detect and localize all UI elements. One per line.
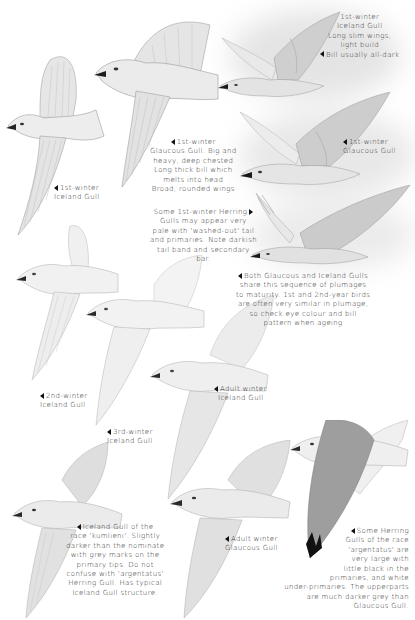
caption-sequence-note: Both Glaucous and Iceland Gulls share th… (236, 272, 370, 328)
left-pointing-triangle-icon (238, 273, 242, 279)
left-pointing-triangle-icon (77, 524, 81, 530)
caption-3rd-winter-iceland-gull: 3rd-winter Iceland Gull (107, 428, 153, 447)
left-pointing-triangle-icon (54, 185, 58, 191)
left-pointing-triangle-icon (343, 139, 347, 145)
left-pointing-triangle-icon (225, 536, 229, 542)
left-pointing-triangle-icon (214, 386, 218, 392)
caption-herring-gull-argentatus: Some Herring Gulls of the race 'argentat… (284, 527, 409, 612)
caption-adult-winter-iceland-gull: Adult winter Iceland Gull (214, 385, 267, 404)
right-pointing-triangle-icon (249, 209, 253, 215)
caption-iceland-gull-kumlieni: Iceland Gull of the race 'kumlieni'. Sli… (66, 523, 164, 598)
left-pointing-triangle-icon (351, 528, 355, 534)
caption-1st-winter-glaucous-gull-big: 1st-winter Glaucous Gull. Big and heavy,… (150, 138, 237, 194)
caption-1st-winter-iceland-gull-top: 1st-winter Iceland Gull Long slim wings,… (320, 13, 399, 60)
caption-1st-winter-glaucous-gull-right: 1st-winter Glaucous Gull (343, 138, 396, 157)
bird-adult-winter-glaucous-gull (170, 440, 300, 620)
caption-2nd-winter-iceland-gull: 2nd-winter Iceland Gull (40, 392, 87, 411)
left-pointing-triangle-icon (107, 429, 111, 435)
caption-1st-winter-iceland-gull-left: 1st-winter Iceland Gull (54, 184, 100, 203)
left-pointing-triangle-icon (171, 139, 175, 145)
bird-1st-winter-herring-gull-pale (250, 185, 415, 265)
left-pointing-triangle-icon (320, 51, 324, 57)
left-pointing-triangle-icon (40, 393, 44, 399)
field-guide-plate: 1st-winter Iceland Gull Long slim wings,… (0, 0, 415, 620)
caption-herring-gull-pale: Some 1st-winter Herring Gulls may appear… (150, 208, 257, 264)
caption-adult-winter-glaucous-gull: Adult winter Glaucous Gull (225, 535, 278, 554)
